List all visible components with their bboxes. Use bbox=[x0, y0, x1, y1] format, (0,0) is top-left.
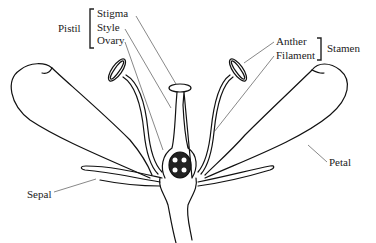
style-leader bbox=[125, 29, 171, 108]
left-anther bbox=[105, 56, 128, 83]
stigma-leader bbox=[136, 16, 176, 84]
pistil-label: Pistil bbox=[58, 23, 81, 34]
flower-illustration bbox=[0, 0, 376, 243]
ovary-label: Ovary bbox=[97, 35, 125, 46]
anther-leader bbox=[244, 42, 274, 63]
petal-label: Petal bbox=[329, 157, 351, 168]
pistil-bracket bbox=[90, 9, 94, 48]
right-filament bbox=[198, 75, 230, 172]
sepal-label: Sepal bbox=[27, 189, 51, 200]
stamen-bracket bbox=[317, 38, 321, 60]
receptacle bbox=[160, 178, 176, 243]
anther-label: Anther bbox=[276, 36, 307, 47]
stamen-label: Stamen bbox=[327, 43, 360, 54]
style-label: Style bbox=[97, 22, 120, 33]
stigma-label: Stigma bbox=[97, 8, 128, 19]
filament-label: Filament bbox=[276, 50, 315, 61]
flower-diagram: Pistil Stigma Style Ovary Anther Filamen… bbox=[0, 0, 376, 243]
sepal-leader bbox=[54, 179, 96, 192]
stigma bbox=[169, 84, 191, 92]
filament-leader bbox=[214, 56, 274, 132]
left-filament bbox=[126, 75, 162, 172]
petal-leader bbox=[308, 145, 327, 162]
left-petal bbox=[11, 64, 152, 178]
